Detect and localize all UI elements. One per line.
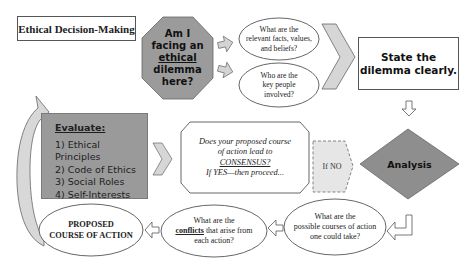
arrow-left-icon [268,220,283,236]
evaluate-item: 4) Self-Interests [55,189,147,202]
conflicts-keyword: conflicts [175,226,203,235]
evaluate-list: 1) Ethical Principles 2) Code of Ethics … [55,139,147,202]
arrow-left-icon [145,222,159,238]
evaluate-item: 2) Code of Ethics [55,164,147,177]
diagram-title: Ethical Decision-Making [17,16,136,41]
question-people-text: Who are the key people involved? [239,63,319,107]
arrow-hook-left-icon [387,215,412,240]
chevron-right-icon [322,24,355,89]
question-facts-text: What are the relevant facts, values, and… [239,18,319,60]
question-courses-text: What are the possible courses of action … [284,199,386,255]
proposed-action-text: PROPOSED COURSE OF ACTION [39,204,143,256]
consensus-keyword: CONSENSUS? [220,158,271,169]
state-dilemma-box: State the dilemma clearly. [358,37,459,90]
arrow-right-icon [216,35,234,54]
evaluate-box: Evaluate: 1) Ethical Principles 2) Code … [41,113,148,199]
evaluate-heading: Evaluate: [55,122,147,135]
consensus-question: Does your proposed course of action lead… [181,122,309,193]
arrow-right-icon [216,61,234,80]
analysis-label: Analysis [360,129,459,199]
octagon-question: Am I facing an ethical dilemma here? [142,17,213,99]
question-conflicts-text: What are the conflicts that arise from e… [161,205,267,257]
evaluate-item: 3) Social Roles [55,176,147,189]
ethical-keyword: ethical [158,52,196,64]
chevron-right-icon [153,143,172,175]
evaluate-item: 1) Ethical Principles [55,139,147,164]
arrow-down-icon [402,101,416,116]
if-no-label: If NO [313,141,351,192]
